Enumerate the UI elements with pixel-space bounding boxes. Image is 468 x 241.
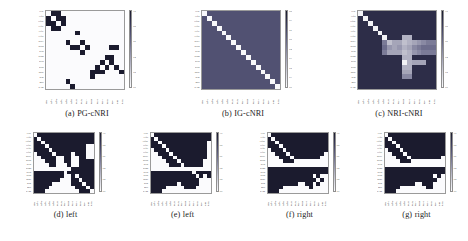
x-tick-label: RElb bbox=[63, 195, 66, 206]
y-tick-label: RAnk bbox=[39, 85, 44, 88]
colorbar-ticks: 0.80.70.60.50.40.30.20.10.0 bbox=[289, 10, 292, 88]
colorbar-tick-label: 0.0 bbox=[337, 190, 340, 193]
x-tick-label: RHnd bbox=[402, 91, 405, 104]
heatmap-cell bbox=[441, 189, 445, 193]
colorbar-tick-label: 0.6 bbox=[445, 40, 448, 43]
y-tick-label: RElb bbox=[261, 163, 265, 166]
caption-tag: (b) bbox=[222, 109, 232, 118]
matrix-column-d: LTWLeftSLeftWLeftULeftELeftHRUS1RUS2RElb… bbox=[33, 132, 95, 206]
y-tick-label: RHnd bbox=[260, 166, 265, 169]
x-tick-label: LeftE bbox=[221, 91, 224, 104]
y-tick-label: RGld bbox=[195, 60, 200, 63]
y-tick-label: LTW bbox=[144, 132, 148, 135]
colorbar-tick-label: 0.3 bbox=[289, 57, 292, 60]
y-tick-label: LeftE bbox=[195, 30, 200, 33]
heatmap-matrix-b[interactable] bbox=[201, 10, 281, 90]
plot-area-c: LTWLeftSLeftWLeftULeftELeftHRUS1RUS2RElb… bbox=[350, 10, 448, 104]
heatmap-matrix-e[interactable] bbox=[150, 132, 212, 194]
x-tick-label: RUS2 bbox=[176, 195, 179, 206]
colorbar-ticks: 1.00.80.60.40.20.0 bbox=[103, 132, 106, 192]
y-tick-label: RAnk bbox=[26, 190, 31, 193]
colorbar-tick-label: 0.0 bbox=[454, 190, 457, 193]
x-tick-label: MID bbox=[437, 195, 440, 206]
heatmap-cell bbox=[207, 189, 211, 193]
panel-a: LTWLeftSLeftWLeftULeftELeftHRUS1RUS2RElb… bbox=[0, 10, 156, 138]
y-tick-label: LeftS bbox=[26, 135, 31, 138]
y-axis-labels-c: LTWLeftSLeftWLeftULeftELeftHRUS1RUS2RElb… bbox=[350, 10, 357, 88]
x-tick-label: RKne bbox=[313, 195, 316, 206]
colorbar-tick-label: 1.0 bbox=[454, 132, 457, 135]
heatmap-matrix-f[interactable] bbox=[267, 132, 329, 194]
x-tick-label: MID bbox=[115, 91, 118, 104]
caption-text: left bbox=[66, 210, 77, 219]
caption-tag: (f) bbox=[286, 210, 294, 219]
x-tick-label: RHnd bbox=[90, 91, 93, 104]
colorbar-gradient bbox=[99, 132, 102, 192]
y-tick-label: RUS1 bbox=[350, 40, 355, 43]
y-tick-label: LeftH bbox=[39, 35, 44, 38]
matrix-column-b: LTWLeftSLeftWLeftULeftELeftHRUS1RUS2RElb… bbox=[201, 10, 281, 104]
panel-caption-b: (b)IG-cNRI bbox=[222, 109, 264, 118]
colorbar-tick-label: 0.6 bbox=[220, 155, 223, 158]
y-tick-label: LeftU bbox=[39, 25, 44, 28]
heatmap-matrix-a[interactable] bbox=[45, 10, 125, 90]
x-tick-label: RFot bbox=[422, 91, 425, 104]
colorbar-tick-label: 0.2 bbox=[220, 178, 223, 181]
colorbar-tick-label: 0.0 bbox=[445, 86, 448, 89]
matrix-column-c: LTWLeftSLeftWLeftULeftELeftHRUS1RUS2RElb… bbox=[357, 10, 437, 104]
colorbar-tick-label: 0.0 bbox=[103, 190, 106, 193]
heatmap-matrix-c[interactable] bbox=[357, 10, 437, 90]
x-tick-label: LeftU bbox=[216, 91, 219, 104]
x-axis-labels-f: LTWLeftSLeftWLeftULeftELeftHRUS1RUS2RElb… bbox=[267, 194, 327, 206]
x-tick-label: RKne bbox=[430, 195, 433, 206]
y-tick-label: RFot bbox=[27, 182, 31, 185]
y-tick-label: RHnd bbox=[195, 55, 200, 58]
matrix-column-a: LTWLeftSLeftWLeftULeftELeftHRUS1RUS2RElb… bbox=[45, 10, 125, 104]
caption-tag: (g) bbox=[402, 210, 412, 219]
colorbar-tick-label: 0.8 bbox=[454, 143, 457, 146]
y-tick-label: RUS2 bbox=[350, 45, 355, 48]
x-tick-label: RAnk bbox=[276, 91, 279, 104]
y-tick-label: RElb bbox=[144, 163, 148, 166]
plot-area-e: LTWLeftSLeftWLeftULeftELeftHRUS1RUS2RElb… bbox=[143, 132, 223, 206]
y-tick-label: RHnd bbox=[26, 166, 31, 169]
y-tick-label: RAnk bbox=[143, 190, 148, 193]
heatmap-matrix-d[interactable] bbox=[33, 132, 95, 194]
y-tick-label: LeftW bbox=[194, 20, 199, 23]
y-tick-label: RHnd bbox=[143, 166, 148, 169]
panel-d: LTWLeftSLeftWLeftULeftELeftHRUS1RUS2RElb… bbox=[0, 132, 117, 241]
x-tick-label: LeftW bbox=[157, 195, 160, 206]
colorbar-tick-label: 0.0 bbox=[220, 190, 223, 193]
x-tick-label: LTW bbox=[266, 195, 269, 206]
x-tick-label: RHip bbox=[100, 91, 103, 104]
panel-f: LTWLeftSLeftWLeftULeftELeftHRUS1RUS2RElb… bbox=[234, 132, 351, 241]
figure-row-bottom: LTWLeftSLeftWLeftULeftELeftHRUS1RUS2RElb… bbox=[0, 128, 468, 241]
x-tick-label: LeftH bbox=[70, 91, 73, 104]
colorbar-tick-label: 0.6 bbox=[103, 155, 106, 158]
matrix-column-g: LTWLeftSLeftWLeftULeftELeftHRUS1RUS2RElb… bbox=[384, 132, 446, 206]
caption-tag: (e) bbox=[171, 210, 180, 219]
y-tick-label: LeftS bbox=[195, 15, 200, 18]
x-tick-label: RUS1 bbox=[231, 91, 234, 104]
caption-tag: (d) bbox=[54, 210, 64, 219]
heatmap-matrix-g[interactable] bbox=[384, 132, 446, 194]
caption-text: IG-cNRI bbox=[234, 109, 264, 118]
x-tick-label: LeftE bbox=[282, 195, 285, 206]
y-tick-label: LeftS bbox=[39, 15, 44, 18]
y-tick-label: LTW bbox=[39, 10, 43, 13]
y-tick-label: LeftS bbox=[260, 135, 265, 138]
colorbar-tick-label: 0.8 bbox=[337, 143, 340, 146]
colorbar-tick-label: 1.0 bbox=[445, 10, 448, 13]
x-tick-label: RGld bbox=[188, 195, 191, 206]
x-tick-label: RHip bbox=[426, 195, 429, 206]
x-tick-label: RKne bbox=[79, 195, 82, 206]
colorbar-tick-label: 0.2 bbox=[445, 70, 448, 73]
caption-text: right bbox=[297, 210, 313, 219]
colorbar-gradient bbox=[216, 132, 219, 192]
y-tick-label: RUS2 bbox=[143, 159, 148, 162]
x-tick-label: LeftS bbox=[362, 91, 365, 104]
panel-caption-e: (e)left bbox=[171, 210, 194, 219]
x-tick-label: RFot bbox=[199, 195, 202, 206]
x-tick-label: RUS1 bbox=[289, 195, 292, 206]
x-tick-label: LeftW bbox=[274, 195, 277, 206]
